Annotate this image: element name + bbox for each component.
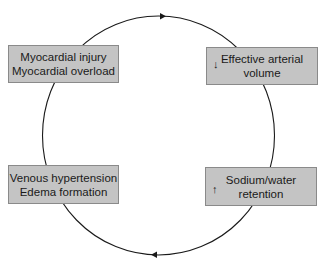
node-venous-hypertension: Venous hypertension Edema formation [8,165,119,204]
node-label-line2: Myocardial overload [12,64,115,78]
arrowhead-bottom-icon [151,252,157,258]
node-label-line2: retention [239,187,284,201]
node-label-line2: Edema formation [20,185,108,199]
node-myocardial-injury: Myocardial injury Myocardial overload [8,45,119,83]
node-label-line1: Venous hypertension [10,171,117,185]
node-label-line1: Effective arterial [221,52,303,66]
down-arrow-icon: ↓ [213,59,219,70]
cycle-ring [0,0,325,268]
up-arrow-icon: ↑ [212,184,218,195]
node-sodium-water-retention: ↑ Sodium/water retention [205,167,317,206]
node-label-line2: volume [243,66,280,80]
arrowhead-top-icon [160,13,166,19]
node-label-line1: Myocardial injury [20,50,106,64]
node-label-line1: Sodium/water [226,173,296,187]
node-effective-arterial-volume: ↓ Effective arterial volume [206,47,318,85]
